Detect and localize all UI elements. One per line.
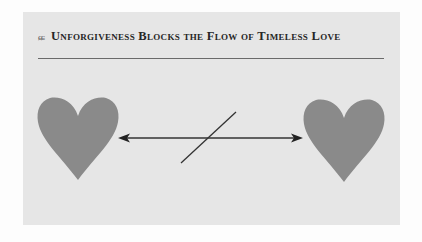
diagram-canvas — [23, 12, 400, 225]
left-heart-icon — [38, 98, 119, 180]
figure-panel: ɕɕ Unforgiveness Blocks the Flow of Time… — [23, 12, 400, 225]
right-heart-icon — [304, 100, 385, 182]
